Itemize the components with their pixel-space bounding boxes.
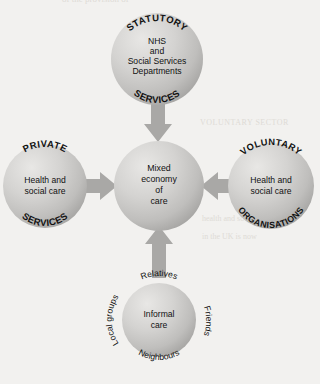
- statutory-line-2: Social Services: [128, 56, 187, 66]
- informal-outside-label-local-groups: Local groups: [104, 292, 121, 347]
- centre-line-3: care: [150, 196, 167, 206]
- informal-line-1: care: [151, 320, 168, 330]
- node-statutory[interactable]: STATUTORY NHS and Social Services Depart…: [111, 12, 203, 105]
- statutory-line-3: Departments: [132, 66, 181, 76]
- voluntary-line-0: Health and: [250, 175, 292, 185]
- centre-line-1: economy: [141, 174, 177, 184]
- private-line-1: social care: [24, 186, 65, 196]
- voluntary-line-1: social care: [250, 186, 291, 196]
- centre-line-0: Mixed: [147, 163, 171, 173]
- node-informal[interactable]: Informal care Relatives Neighbours Local…: [104, 268, 215, 362]
- node-voluntary[interactable]: VOLUNTARY Health and social care ORGANIS…: [228, 137, 314, 230]
- node-centre[interactable]: Mixed economy of care: [114, 141, 204, 231]
- centre-line-2: of: [155, 185, 163, 195]
- informal-line-0: Informal: [143, 309, 174, 319]
- private-line-0: Health and: [24, 175, 66, 185]
- statutory-line-0: NHS: [148, 36, 166, 46]
- arrow-statutory-to-centre: [144, 100, 172, 142]
- diagram-canvas: of the provision of VOLUNTARY SECTOR hea…: [0, 0, 320, 384]
- node-private[interactable]: PRIVATE Health and social care SERVICES: [3, 138, 87, 228]
- statutory-line-1: and: [150, 46, 165, 56]
- informal-outside-label-friends: Friends: [202, 305, 214, 338]
- mixed-economy-of-care-diagram: STATUTORY NHS and Social Services Depart…: [0, 0, 320, 384]
